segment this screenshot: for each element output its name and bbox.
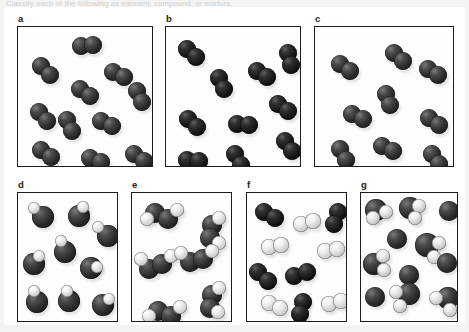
atom-sphere bbox=[437, 253, 457, 273]
atom-sphere bbox=[266, 209, 284, 227]
atom-sphere bbox=[42, 148, 60, 166]
atom-sphere bbox=[337, 151, 355, 167]
atom-sphere bbox=[232, 156, 250, 167]
panel-label-g: g bbox=[361, 180, 367, 190]
atom-sphere bbox=[393, 299, 407, 313]
atom-sphere bbox=[81, 87, 99, 105]
atom-sphere bbox=[55, 235, 67, 247]
atom-sphere bbox=[38, 112, 56, 130]
atom-sphere bbox=[389, 285, 403, 299]
atom-sphere bbox=[272, 300, 288, 316]
atom-sphere bbox=[377, 263, 391, 277]
panel-e[interactable]: e bbox=[131, 180, 232, 322]
panel-box-c bbox=[314, 26, 454, 167]
atom-sphere bbox=[430, 155, 448, 167]
atom-sphere bbox=[134, 252, 148, 266]
atom-sphere bbox=[429, 66, 447, 84]
atom-sphere bbox=[41, 66, 59, 84]
atom-sphere bbox=[61, 285, 73, 297]
panel-label-f: f bbox=[247, 180, 250, 190]
panel-a[interactable]: a bbox=[17, 14, 153, 167]
atom-sphere bbox=[384, 142, 402, 160]
atom-sphere bbox=[212, 211, 226, 225]
atom-sphere bbox=[354, 110, 372, 128]
atom-sphere bbox=[376, 249, 390, 263]
atom-sphere bbox=[240, 116, 258, 134]
panel-box-a bbox=[17, 26, 153, 167]
atom-sphere bbox=[133, 93, 151, 111]
atom-sphere bbox=[103, 117, 121, 135]
atom-sphere bbox=[33, 250, 45, 262]
atom-sphere bbox=[28, 202, 40, 214]
atom-sphere bbox=[439, 201, 458, 221]
atom-sphere bbox=[432, 236, 446, 250]
atom-sphere bbox=[365, 287, 385, 307]
atom-sphere bbox=[170, 203, 184, 217]
atom-sphere bbox=[63, 122, 81, 140]
atom-sphere bbox=[279, 102, 297, 120]
atom-sphere bbox=[205, 244, 219, 258]
figure-page: Classify each of the following as elemen… bbox=[0, 0, 469, 332]
atom-sphere bbox=[142, 309, 156, 322]
atom-sphere bbox=[273, 237, 289, 253]
atom-sphere bbox=[283, 142, 301, 160]
atom-sphere bbox=[140, 212, 154, 226]
atom-sphere bbox=[28, 285, 40, 297]
atom-sphere bbox=[379, 205, 393, 219]
atom-sphere bbox=[366, 211, 380, 225]
atom-sphere bbox=[91, 261, 103, 273]
atom-sphere bbox=[258, 68, 276, 86]
atom-sphere bbox=[399, 265, 419, 285]
atom-sphere bbox=[408, 211, 422, 225]
atom-sphere bbox=[211, 305, 225, 319]
atom-sphere bbox=[174, 246, 188, 260]
atom-sphere bbox=[259, 272, 277, 290]
atom-sphere bbox=[298, 263, 316, 281]
atom-sphere bbox=[429, 291, 443, 305]
atom-sphere bbox=[430, 116, 448, 134]
panel-label-a: a bbox=[18, 14, 23, 24]
atom-sphere bbox=[187, 48, 205, 66]
atom-sphere bbox=[188, 118, 206, 136]
atom-sphere bbox=[212, 281, 226, 295]
atom-sphere bbox=[443, 303, 457, 317]
atom-sphere bbox=[282, 56, 300, 74]
atom-sphere bbox=[84, 36, 102, 54]
atom-sphere bbox=[333, 293, 347, 309]
atom-sphere bbox=[135, 152, 153, 167]
atom-sphere bbox=[92, 221, 104, 233]
panel-label-e: e bbox=[132, 180, 137, 190]
atom-sphere bbox=[341, 62, 359, 80]
panel-c[interactable]: c bbox=[314, 14, 454, 167]
atom-sphere bbox=[77, 201, 89, 213]
question-prompt: Classify each of the following as elemen… bbox=[6, 0, 446, 8]
panel-box-f bbox=[246, 192, 347, 322]
atom-sphere bbox=[173, 300, 187, 314]
panel-label-c: c bbox=[315, 14, 320, 24]
atom-sphere bbox=[215, 80, 233, 98]
atom-sphere bbox=[305, 213, 321, 229]
panel-box-e bbox=[131, 192, 232, 322]
panel-g[interactable]: g bbox=[360, 180, 458, 322]
panel-label-b: b bbox=[166, 14, 172, 24]
panel-b[interactable]: b bbox=[165, 14, 301, 167]
atom-sphere bbox=[387, 229, 407, 249]
atom-sphere bbox=[92, 153, 110, 167]
panel-f[interactable]: f bbox=[246, 180, 347, 322]
atom-sphere bbox=[329, 241, 345, 257]
atom-sphere bbox=[103, 293, 115, 305]
atom-sphere bbox=[325, 215, 343, 233]
panel-box-d bbox=[17, 192, 118, 322]
atom-sphere bbox=[291, 305, 309, 322]
panel-box-g bbox=[360, 192, 458, 322]
atom-sphere bbox=[394, 52, 412, 70]
panel-box-b bbox=[165, 26, 301, 167]
atom-sphere bbox=[381, 96, 399, 114]
atom-sphere bbox=[190, 152, 208, 167]
panel-d[interactable]: d bbox=[17, 180, 118, 322]
panel-label-d: d bbox=[18, 180, 24, 190]
